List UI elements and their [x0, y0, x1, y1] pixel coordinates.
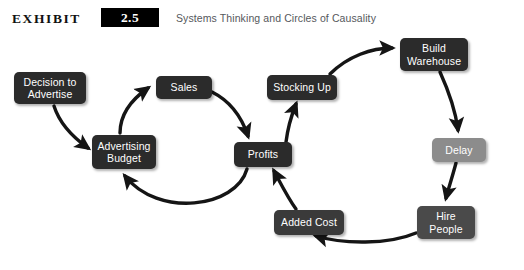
node-advertising-budget[interactable]: AdvertisingBudget — [92, 135, 156, 169]
edge-profits-to-advertising-budget — [125, 169, 247, 203]
node-label: BuildWarehouse — [407, 42, 461, 67]
node-label: Delay — [445, 144, 472, 157]
node-delay[interactable]: Delay — [432, 138, 486, 162]
edge-advertising-budget-to-sales — [120, 88, 148, 133]
node-label: Stocking Up — [273, 81, 331, 94]
node-build-warehouse[interactable]: BuildWarehouse — [400, 38, 468, 71]
edge-stocking-up-to-build-warehouse — [330, 48, 392, 74]
node-label: Sales — [171, 81, 198, 94]
node-added-cost[interactable]: Added Cost — [274, 210, 344, 235]
edge-profits-to-stocking-up — [286, 104, 296, 142]
node-label: Added Cost — [281, 216, 337, 229]
exhibit-subtitle: Systems Thinking and Circles of Causalit… — [176, 12, 376, 24]
edge-build-warehouse-to-delay — [440, 72, 458, 130]
node-label: HirePeople — [429, 210, 462, 235]
node-hire-people[interactable]: HirePeople — [417, 206, 475, 239]
node-sales[interactable]: Sales — [156, 76, 212, 99]
node-profits[interactable]: Profits — [234, 142, 292, 167]
node-label: AdvertisingBudget — [97, 140, 150, 165]
edge-sales-to-profits — [212, 92, 248, 136]
edge-decision-to-advertising-budget — [54, 106, 88, 148]
node-label: Decision toAdvertise — [23, 76, 76, 101]
edge-added-cost-to-profits — [274, 171, 296, 209]
exhibit-word: EXHIBIT — [12, 11, 81, 27]
edge-delay-to-hire-people — [446, 163, 456, 198]
node-label: Profits — [248, 148, 278, 161]
node-stocking-up[interactable]: Stocking Up — [267, 75, 337, 100]
diagram-canvas: Decision toAdvertise AdvertisingBudget S… — [0, 30, 524, 270]
exhibit-number: 2.5 — [101, 8, 159, 27]
exhibit-number-box: 2.5 — [101, 8, 159, 27]
node-decision-to-advertise[interactable]: Decision toAdvertise — [14, 72, 86, 104]
exhibit-page: EXHIBIT 2.5 Systems Thinking and Circles… — [0, 0, 524, 270]
